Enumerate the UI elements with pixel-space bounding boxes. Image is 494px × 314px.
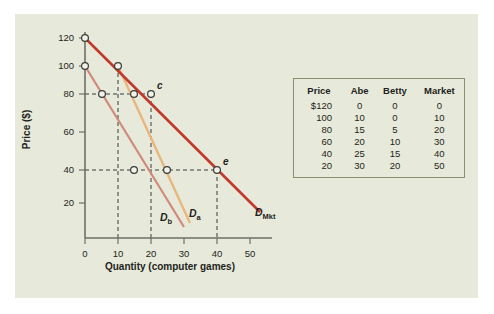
y-tick-label-120: 120 (50, 32, 74, 43)
cell-betty: 0 (375, 111, 415, 123)
cell-market: 20 (415, 123, 464, 135)
series-label-dmkt-sub: Mkt (263, 212, 276, 221)
x-tick-label-50: 50 (238, 248, 262, 259)
table-header-betty: Betty (375, 84, 415, 99)
series-label-da-sub: a (197, 213, 201, 222)
annotation-point-e: e (223, 156, 229, 167)
table-header-price: Price (294, 84, 344, 99)
series-label-db: Db (160, 211, 172, 226)
y-tick-label-80: 80 (50, 88, 74, 99)
y-tick-label-20: 20 (50, 197, 74, 208)
cell-abe: 25 (344, 147, 375, 159)
table: Price Abe Betty Market $120 0 0 0 100 10… (294, 84, 464, 171)
table-row: 100 10 0 10 (294, 111, 464, 123)
marker-da-25-40 (164, 167, 171, 174)
series-label-dmkt: DMkt (255, 206, 276, 221)
cell-price: $120 (294, 99, 344, 111)
marker-da-15-80 (131, 91, 138, 98)
cell-price: 100 (294, 111, 344, 123)
cell-betty: 10 (375, 135, 415, 147)
table-header-abe: Abe (344, 84, 375, 99)
x-tick-label-10: 10 (106, 248, 130, 259)
table-header-market: Market (415, 84, 464, 99)
cell-market: 30 (415, 135, 464, 147)
y-tick-label-60: 60 (50, 126, 74, 137)
cell-abe: 10 (344, 111, 375, 123)
x-tick-label-30: 30 (172, 248, 196, 259)
cell-betty: 15 (375, 147, 415, 159)
table-header-row: Price Abe Betty Market (294, 84, 464, 99)
cell-price: 80 (294, 123, 344, 135)
cell-abe: 30 (344, 159, 375, 171)
cell-abe: 0 (344, 99, 375, 111)
marker-db-15-40 (131, 167, 138, 174)
series-line-da (118, 66, 190, 223)
cell-market: 10 (415, 111, 464, 123)
table-row: $120 0 0 0 (294, 99, 464, 111)
demand-schedule-table: Price Abe Betty Market $120 0 0 0 100 10… (293, 78, 465, 178)
cell-price: 20 (294, 159, 344, 171)
x-tick-label-40: 40 (205, 248, 229, 259)
cell-abe: 20 (344, 135, 375, 147)
series-label-db-main: D (160, 211, 168, 223)
figure-container: 120 100 80 60 40 20 0 10 20 30 40 50 Pri… (0, 0, 494, 314)
series-label-da-main: D (189, 207, 197, 219)
cell-market: 50 (415, 159, 464, 171)
table-row: 40 25 15 40 (294, 147, 464, 159)
y-axis-title: Price ($) (21, 85, 32, 175)
series-label-dmkt-main: D (255, 206, 263, 218)
marker-dmkt-40-40 (214, 167, 221, 174)
series-label-da: Da (189, 207, 201, 222)
cell-abe: 15 (344, 123, 375, 135)
marker-db-5-80 (99, 91, 106, 98)
table-row: 20 30 20 50 (294, 159, 464, 171)
axes (85, 32, 272, 238)
cell-market: 0 (415, 99, 464, 111)
marker-dmkt-20-80 (148, 91, 155, 98)
marker-da-10-100 (115, 63, 122, 70)
table-row: 60 20 10 30 (294, 135, 464, 147)
cell-betty: 0 (375, 99, 415, 111)
annotation-point-c: c (157, 80, 163, 91)
x-tick-marks (85, 238, 250, 244)
x-tick-label-20: 20 (139, 248, 163, 259)
y-tick-label-100: 100 (50, 60, 74, 71)
x-axis-title: Quantity (computer games) (85, 261, 255, 272)
cell-market: 40 (415, 147, 464, 159)
cell-betty: 20 (375, 159, 415, 171)
marker-dmkt-0-120 (82, 35, 89, 42)
cell-price: 60 (294, 135, 344, 147)
marker-db-0-100 (82, 63, 89, 70)
x-tick-label-0: 0 (73, 248, 97, 259)
y-tick-label-40: 40 (50, 164, 74, 175)
series-label-db-sub: b (168, 217, 173, 226)
cell-price: 40 (294, 147, 344, 159)
cell-betty: 5 (375, 123, 415, 135)
table-row: 80 15 5 20 (294, 123, 464, 135)
